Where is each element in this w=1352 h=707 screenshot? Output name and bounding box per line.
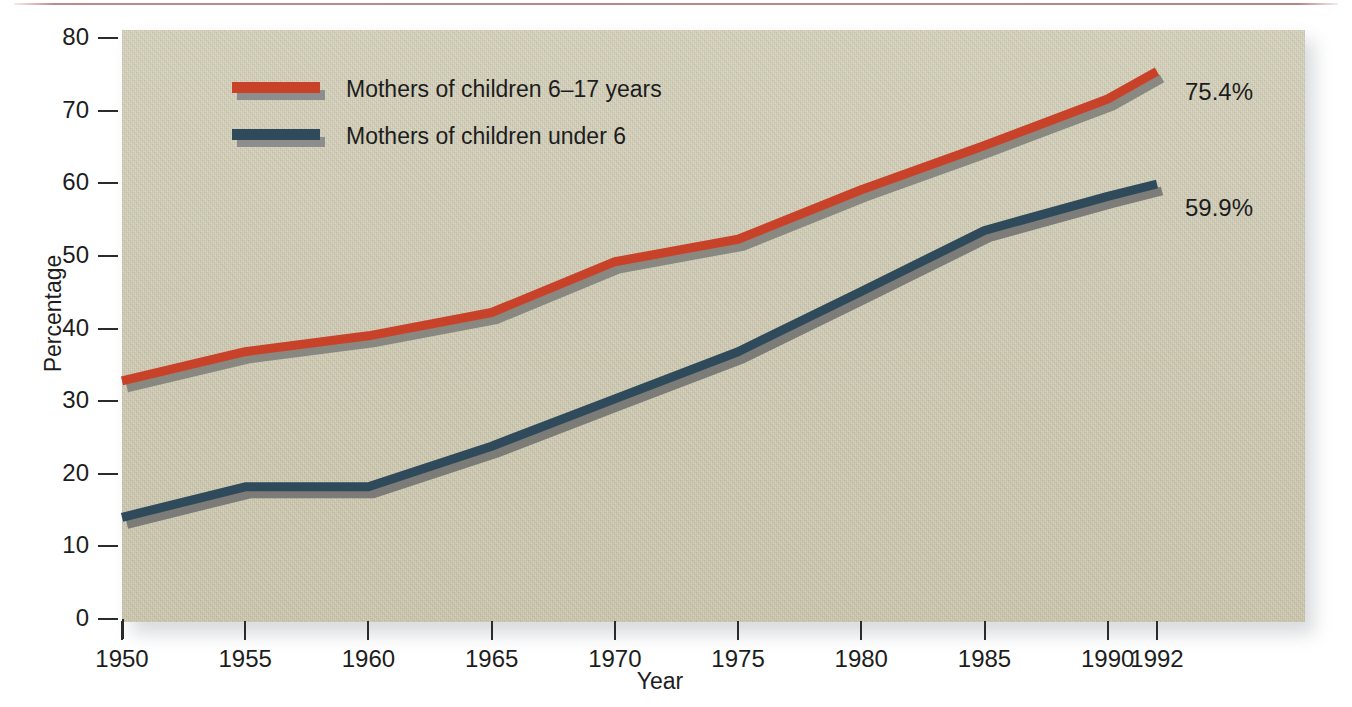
y-tick-mark <box>98 328 118 330</box>
line-chart-figure: 0102030405060708019501955196019651970197… <box>0 0 1352 707</box>
x-tick-label: 1992 <box>1107 645 1207 673</box>
y-tick-mark <box>98 400 118 402</box>
end-value-label-upper: 75.4% <box>1185 78 1253 106</box>
y-tick-mark <box>98 37 118 39</box>
y-tick-mark <box>98 110 118 112</box>
x-tick-mark <box>1107 621 1109 640</box>
x-tick-mark <box>984 621 986 640</box>
x-tick-mark <box>1156 621 1158 640</box>
y-axis-title: Percentage <box>40 234 67 394</box>
y-tick-label: 20 <box>0 459 89 487</box>
legend-label-mothers-6-17: Mothers of children 6–17 years <box>346 76 662 103</box>
y-tick-label: 0 <box>0 604 89 632</box>
y-tick-mark <box>98 255 118 257</box>
y-tick-label: 10 <box>0 531 89 559</box>
axis-origin-corner <box>122 619 124 639</box>
legend-swatch-blue <box>232 129 320 140</box>
x-tick-mark <box>244 621 246 640</box>
legend-swatch-red <box>232 82 320 93</box>
legend-label-mothers-under-6: Mothers of children under 6 <box>346 123 626 150</box>
x-tick-mark <box>491 621 493 640</box>
x-axis-title: Year <box>600 668 720 695</box>
y-tick-mark <box>98 473 118 475</box>
y-tick-mark <box>98 545 118 547</box>
chart-legend: Mothers of children 6–17 years Mothers o… <box>232 76 792 156</box>
y-tick-label: 70 <box>0 96 89 124</box>
x-tick-label: 1950 <box>72 645 172 673</box>
x-tick-label: 1955 <box>195 645 295 673</box>
y-tick-mark <box>98 618 118 620</box>
y-tick-mark <box>98 182 118 184</box>
x-tick-mark <box>614 621 616 640</box>
x-tick-label: 1965 <box>442 645 542 673</box>
x-tick-label: 1980 <box>811 645 911 673</box>
chart-page: 0102030405060708019501955196019651970197… <box>0 0 1352 707</box>
end-value-label-lower: 59.9% <box>1185 194 1253 222</box>
x-tick-label: 1960 <box>318 645 418 673</box>
x-tick-mark <box>367 621 369 640</box>
y-tick-label: 60 <box>0 168 89 196</box>
x-tick-mark <box>737 621 739 640</box>
x-tick-label: 1985 <box>935 645 1035 673</box>
y-tick-label: 80 <box>0 23 89 51</box>
x-tick-mark <box>860 621 862 640</box>
